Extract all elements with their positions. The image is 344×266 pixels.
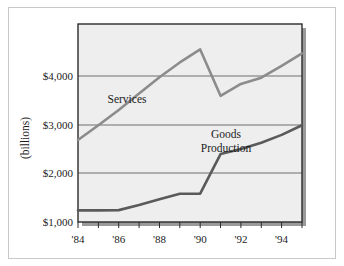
x-tick-label-84: '84 (72, 233, 85, 245)
y-tick-label-1000: $1,000 (43, 216, 74, 228)
y-tick-label-2000: $2,000 (43, 167, 74, 179)
x-tick-label-94: '94 (275, 233, 288, 245)
y-axis-tick-labels: $4,000 $3,000 $2,000 $1,000 (43, 70, 74, 228)
x-tick-label-92: '92 (234, 233, 247, 245)
y-tick-label-3000: $3,000 (43, 119, 74, 131)
series-label-goods-line1: Goods (211, 128, 242, 140)
x-tick-label-88: '88 (153, 233, 166, 245)
line-chart: $4,000 $3,000 $2,000 $1,000 (billions) '… (0, 0, 344, 266)
y-tick-label-4000: $4,000 (43, 70, 74, 82)
x-axis-tick-labels: '84 '86 '88 '90 '92 '94 (72, 233, 289, 245)
series-label-services: Services (108, 93, 147, 105)
x-tick-label-86: '86 (112, 233, 125, 245)
y-axis-title: (billions) (19, 117, 32, 159)
chart-figure: $4,000 $3,000 $2,000 $1,000 (billions) '… (0, 0, 344, 266)
series-label-goods-line2: Production (201, 142, 252, 154)
plot-area-background (78, 24, 302, 222)
x-tick-label-90: '90 (194, 233, 207, 245)
